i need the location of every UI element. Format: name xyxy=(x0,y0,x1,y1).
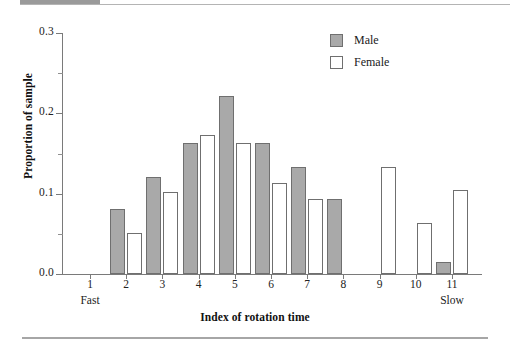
bar-female-11 xyxy=(453,190,468,274)
legend-label: Female xyxy=(354,55,389,70)
bar-male-8 xyxy=(327,199,342,274)
bar-female-7 xyxy=(308,199,323,274)
bar-male-5 xyxy=(219,96,234,274)
legend-swatch-icon-male xyxy=(330,34,343,47)
bar-female-9 xyxy=(381,167,396,274)
bar-male-6 xyxy=(255,143,270,274)
bar-female-4 xyxy=(200,135,215,274)
bar-female-10 xyxy=(417,223,432,274)
bottom-horizontal-rule xyxy=(22,337,488,339)
legend-swatch-icon-female xyxy=(330,56,343,69)
bar-male-7 xyxy=(291,167,306,274)
bar-female-3 xyxy=(163,192,178,274)
bar-male-4 xyxy=(183,143,198,274)
bar-male-11 xyxy=(436,262,451,274)
legend: MaleFemale xyxy=(330,29,480,73)
figure-container: 0.00.10.20.3 Proportion of sample 123456… xyxy=(0,0,510,346)
bar-male-2 xyxy=(110,209,125,274)
legend-label: Male xyxy=(354,33,379,48)
bar-female-5 xyxy=(236,143,251,274)
bar-female-2 xyxy=(127,233,142,274)
bar-male-3 xyxy=(146,177,161,274)
legend-item-male: Male xyxy=(330,29,480,51)
legend-item-female: Female xyxy=(330,51,480,73)
bar-female-6 xyxy=(272,183,287,274)
